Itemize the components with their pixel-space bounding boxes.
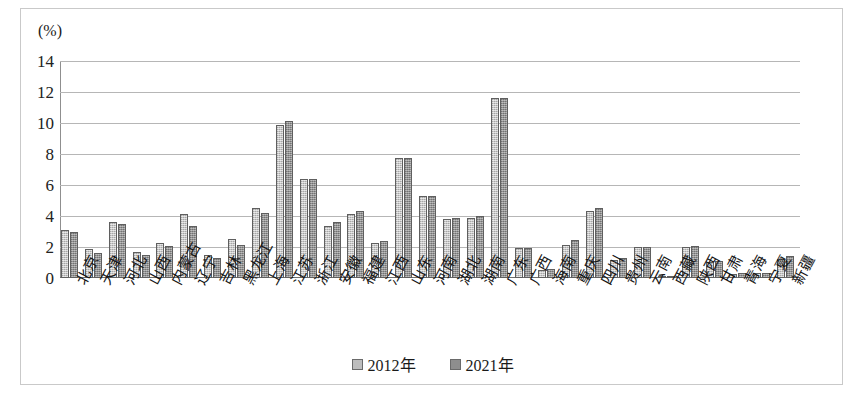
- bar-group: [705, 61, 729, 278]
- bar-group: [490, 61, 514, 278]
- y-axis-tick-0: 0: [8, 270, 54, 287]
- bar-group: [60, 61, 84, 278]
- legend-item-2021年[interactable]: 2021年: [450, 352, 514, 376]
- y-axis-tick-4: 4: [8, 208, 54, 225]
- legend-item-2012年[interactable]: 2012年: [352, 352, 416, 376]
- bar-2021年-江苏[interactable]: [285, 121, 293, 278]
- bar-group: [203, 61, 227, 278]
- bar-group: [275, 61, 299, 278]
- bar-2012年-北京[interactable]: [61, 230, 69, 278]
- bar-group: [633, 61, 657, 278]
- bar-group: [155, 61, 179, 278]
- y-axis-tick-labels: 14121086420: [0, 61, 54, 278]
- bar-group: [418, 61, 442, 278]
- bar-group: [227, 61, 251, 278]
- bar-group: [442, 61, 466, 278]
- bar-group: [657, 61, 681, 278]
- chart-legend: 2012年2021年: [0, 352, 865, 376]
- y-axis-tick-12: 12: [8, 84, 54, 101]
- y-axis-tick-2: 2: [8, 239, 54, 256]
- y-axis-unit-label: (%): [38, 22, 62, 40]
- bar-group: [561, 61, 585, 278]
- bar-group: [752, 61, 776, 278]
- bar-2012年-广东[interactable]: [491, 98, 499, 278]
- bar-group: [394, 61, 418, 278]
- bar-group: [370, 61, 394, 278]
- bar-group: [323, 61, 347, 278]
- x-axis-category-labels: 北京天津河北山西内蒙古辽宁吉林黑龙江上海江苏浙江安徽福建江西山东河南湖北湖南广东…: [60, 280, 800, 360]
- legend-swatch-icon: [352, 359, 363, 370]
- bar-group: [346, 61, 370, 278]
- legend-swatch-icon: [450, 359, 461, 370]
- bar-group: [108, 61, 132, 278]
- bar-group: [776, 61, 800, 278]
- bar-group: [681, 61, 705, 278]
- bar-group: [132, 61, 156, 278]
- y-axis-tick-10: 10: [8, 115, 54, 132]
- y-axis-tick-14: 14: [8, 53, 54, 70]
- bar-group: [728, 61, 752, 278]
- bar-group: [537, 61, 561, 278]
- bar-group: [299, 61, 323, 278]
- bar-group: [609, 61, 633, 278]
- bar-group: [466, 61, 490, 278]
- legend-label: 2021年: [466, 352, 514, 376]
- plot-area: [60, 61, 800, 278]
- chart-container: (%) 14121086420 北京天津河北山西内蒙古辽宁吉林黑龙江上海江苏浙江…: [0, 0, 865, 393]
- bar-group: [84, 61, 108, 278]
- bar-group: [514, 61, 538, 278]
- bar-series-group: [60, 61, 800, 278]
- y-axis-tick-8: 8: [8, 146, 54, 163]
- bar-group: [585, 61, 609, 278]
- legend-label: 2012年: [368, 352, 416, 376]
- bar-2021年-广东[interactable]: [500, 98, 508, 278]
- y-axis-tick-6: 6: [8, 177, 54, 194]
